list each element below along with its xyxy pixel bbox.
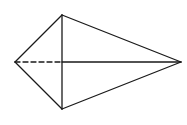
geometric-solid-diagram xyxy=(0,0,187,125)
diagram-canvas xyxy=(0,0,187,125)
